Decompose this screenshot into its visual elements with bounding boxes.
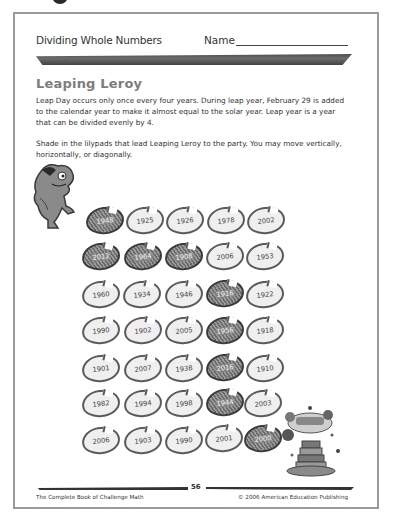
lilypad-year: 2016 [215,363,235,373]
lilypad-year: 1938 [175,364,193,374]
book-title: The Complete Book of Challenge Math [36,494,144,500]
lilypad-year: 1934 [133,290,151,300]
lilypad-year: 1901 [92,364,110,374]
lilypad-year: 1978 [217,216,235,226]
lilypad-year: 1925 [136,216,154,226]
lilypad-year: 1910 [256,364,274,374]
page-number: 56 [191,483,201,491]
lilypad-year: 1948 [95,216,115,226]
lilypad-year: 1926 [176,216,194,226]
lilypad-year: 1990 [175,436,193,446]
cropped-header-glyph [52,0,68,4]
lilypad-year: 1918 [256,326,274,336]
lilypad-year: 1908 [174,252,194,262]
lilypad-year: 1953 [256,252,274,262]
lilypad-year: 1956 [215,326,235,336]
birthday-cake-icon [280,405,360,480]
worksheet-header: Dividing Whole Numbers Name [36,34,348,48]
lilypad-year: 1960 [92,290,110,300]
lilypad-year: 1902 [134,326,152,336]
lilypad-year: 2002 [257,216,275,226]
lilypad-year: 1922 [256,290,274,300]
lilypad-year: 1982 [92,399,110,409]
lilypad-year: 1990 [92,326,110,336]
instructions-paragraph: Shade in the lilypads that lead Leaping … [36,138,348,160]
lilypad-year: 1944 [215,398,235,408]
worksheet-title: Leaping Leroy [36,76,142,91]
intro-paragraph: Leap Day occurs only once every four yea… [36,95,348,129]
lilypad-year: 1964 [133,252,153,262]
lilypad-year: 1903 [134,436,152,446]
lilypad-year: 2006 [92,436,110,446]
lilypad-year: 2005 [175,326,193,336]
lilypad-year: 1994 [134,399,152,409]
lilypad-year: 1916 [215,289,235,299]
frog-icon [28,162,80,232]
lilypad-year: 2003 [254,399,272,409]
lilypad-year: 2000 [253,434,273,444]
subject-label: Dividing Whole Numbers [36,34,162,46]
lilypad-year: 2007 [134,364,152,374]
lilypad-year: 2006 [216,252,234,262]
name-field-line[interactable] [236,45,348,46]
lilypad-year: 2001 [215,434,233,444]
lilypad-year: 2012 [91,252,111,262]
lilypad-year: 1946 [175,290,193,300]
lilypad-year: 1998 [175,399,193,409]
copyright-notice: © 2006 American Education Publishing [238,494,348,500]
name-label: Name [204,34,235,46]
